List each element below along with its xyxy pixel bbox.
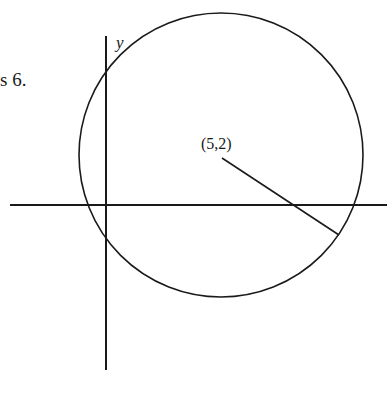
fragment-text: s 6. (0, 69, 26, 90)
center-label: (5,2) (201, 135, 232, 153)
y-axis-label: y (114, 33, 124, 52)
circle-diagram: s 6. y (5,2) (0, 0, 387, 403)
circle (79, 13, 363, 297)
radius-segment (222, 158, 339, 235)
